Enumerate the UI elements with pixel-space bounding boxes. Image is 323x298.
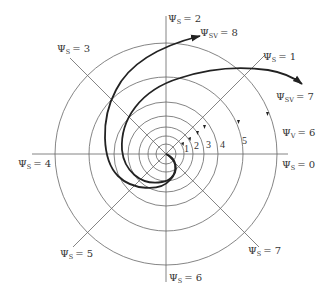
circle-number-3: 3 <box>206 139 211 150</box>
label-psi-s-7: ΨS= 7 <box>248 245 281 258</box>
label-psi-sv-8: ΨSV= 8 <box>200 27 238 40</box>
arrow-icon-ring-7 <box>266 112 269 116</box>
label-psi-s-4: ΨS= 4 <box>18 158 51 171</box>
label-psi-s-5: ΨS= 5 <box>60 248 93 261</box>
circle-number-5: 5 <box>242 135 247 146</box>
spoke-diagonal-nw-se <box>70 58 259 247</box>
spoke-diagonal-ne-sw <box>73 55 265 247</box>
trajectory-sv7 <box>122 68 302 183</box>
curve-labels: ΨSV= 8 ΨSV= 7 ΨV= 6 <box>200 27 315 140</box>
arrow-icon-ring-5 <box>203 125 206 129</box>
label-psi-s-1: ΨS= 1 <box>263 51 296 64</box>
label-psi-s-0: ΨS= 0 <box>282 159 315 172</box>
circle-number-1: 1 <box>184 143 189 154</box>
circle-number-2: 2 <box>194 140 199 151</box>
label-psi-s-2: ΨS= 2 <box>168 13 201 26</box>
trajectory-sv8 <box>105 36 200 188</box>
label-psi-s-3: ΨS= 3 <box>57 43 90 56</box>
label-psi-sv-7: ΨSV= 7 <box>276 91 314 104</box>
spoke-labels: ΨS= 0 ΨS= 1 ΨS= 2 ΨS= 3 ΨS= 4 ΨS= 5 ΨS= … <box>18 13 315 285</box>
circle-number-4: 4 <box>220 139 225 150</box>
label-psi-v-6: ΨV= 6 <box>282 127 315 140</box>
radial-spokes <box>32 16 288 282</box>
polar-spiral-diagram: ΨS= 0 ΨS= 1 ΨS= 2 ΨS= 3 ΨS= 4 ΨS= 5 ΨS= … <box>0 0 323 298</box>
arrow-icon-ring-6 <box>237 120 240 124</box>
label-psi-s-6: ΨS= 6 <box>169 272 202 285</box>
